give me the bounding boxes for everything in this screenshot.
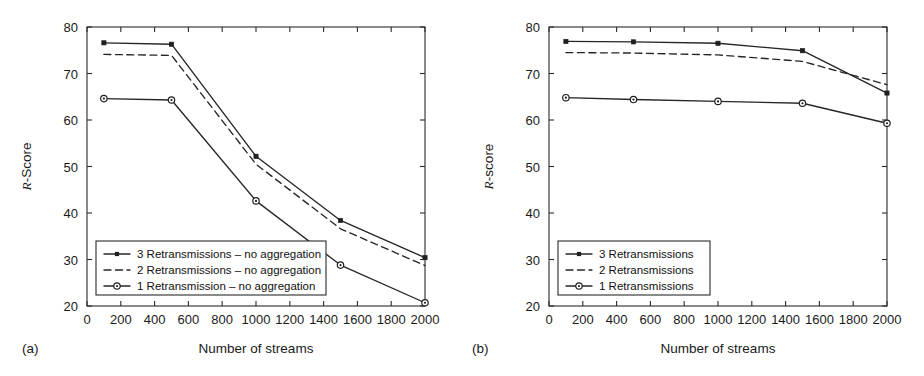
chart-panel-a: 0200400600800100012001400160018002000203… [0, 0, 462, 376]
x-tick-label: 200 [572, 312, 594, 327]
figure-container: 0200400600800100012001400160018002000203… [0, 0, 924, 376]
series-marker-dot [103, 98, 105, 100]
chart-svg-a: 0200400600800100012001400160018002000203… [0, 0, 462, 376]
x-tick-label: 1600 [343, 312, 372, 327]
x-tick-label: 2000 [873, 312, 902, 327]
chart-panel-b: 0200400600800100012001400160018002000203… [462, 0, 924, 376]
legend-label-1: 3 Retransmissions [599, 248, 694, 260]
y-tick-label: 70 [64, 67, 78, 82]
y-axis-title: R-score [481, 144, 496, 191]
panel-tag: (b) [472, 341, 489, 356]
legend-label-2: 2 Retransmissions [599, 264, 694, 276]
series-marker-square [102, 41, 106, 45]
y-tick-label: 60 [64, 113, 78, 128]
legend-label-3: 1 Retransmission – no aggregation [137, 280, 315, 292]
x-tick-label: 400 [606, 312, 628, 327]
series-marker-square [254, 154, 258, 158]
panel-tag: (a) [22, 341, 39, 356]
series-line-1 [104, 43, 425, 258]
x-axis-title: Number of streams [661, 341, 776, 356]
y-tick-label: 40 [526, 206, 540, 221]
y-tick-label: 20 [526, 299, 540, 314]
series-marker-dot [632, 98, 634, 100]
series-marker-square [631, 40, 635, 44]
y-tick-label: 40 [64, 206, 78, 221]
series-marker-dot [801, 102, 803, 104]
series-marker-square [423, 256, 427, 260]
series-marker-dot [424, 302, 426, 304]
x-axis-title: Number of streams [199, 341, 314, 356]
legend-label-2: 2 Retransmissions – no aggregation [137, 264, 321, 276]
y-axis-title-text: R-Score [19, 142, 34, 191]
series-marker-square [338, 218, 342, 222]
x-tick-label: 200 [110, 312, 132, 327]
legend-label-1: 3 Retransmissions – no aggregation [137, 248, 321, 260]
x-tick-label: 800 [673, 312, 695, 327]
series-marker-square [564, 39, 568, 43]
series-line-1 [566, 41, 887, 93]
series-marker-dot [339, 264, 341, 266]
legend-marker-square [577, 252, 581, 256]
legend-marker-square [115, 252, 119, 256]
x-tick-label: 1800 [377, 312, 406, 327]
y-tick-label: 70 [526, 67, 540, 82]
y-axis-title-text: R-score [481, 144, 496, 191]
x-tick-label: 400 [144, 312, 166, 327]
series-marker-square [169, 42, 173, 46]
x-tick-label: 1200 [275, 312, 304, 327]
x-tick-label: 1200 [737, 312, 766, 327]
x-tick-label: 0 [545, 312, 552, 327]
x-tick-label: 2000 [411, 312, 440, 327]
series-marker-square [885, 91, 889, 95]
x-tick-label: 0 [83, 312, 90, 327]
series-marker-square [716, 41, 720, 45]
series-marker-dot [886, 122, 888, 124]
x-tick-label: 600 [640, 312, 662, 327]
legend: 3 Retransmissions2 Retransmissions1 Retr… [558, 241, 710, 295]
series-line-3 [566, 98, 887, 124]
legend-marker-dot [578, 285, 580, 287]
x-tick-label: 1800 [839, 312, 868, 327]
series-marker-dot [170, 99, 172, 101]
y-tick-label: 80 [64, 20, 78, 35]
x-tick-label: 600 [178, 312, 200, 327]
y-tick-label: 50 [64, 160, 78, 175]
x-tick-label: 800 [211, 312, 233, 327]
legend: 3 Retransmissions – no aggregation2 Retr… [96, 241, 326, 295]
y-tick-label: 50 [526, 160, 540, 175]
y-axis-title: R-Score [19, 142, 34, 191]
x-tick-label: 1000 [242, 312, 271, 327]
legend-marker-dot [116, 285, 118, 287]
y-tick-label: 30 [526, 253, 540, 268]
y-axis-title-rest: -Score [19, 142, 34, 182]
y-tick-label: 20 [64, 299, 78, 314]
y-tick-label: 80 [526, 20, 540, 35]
legend-label-3: 1 Retransmissions [599, 280, 694, 292]
x-tick-label: 1600 [805, 312, 834, 327]
chart-svg-b: 0200400600800100012001400160018002000203… [462, 0, 924, 376]
series-marker-dot [255, 200, 257, 202]
series-marker-square [800, 49, 804, 53]
series-marker-dot [565, 97, 567, 99]
x-tick-label: 1400 [309, 312, 338, 327]
x-tick-label: 1000 [704, 312, 733, 327]
series-marker-dot [717, 100, 719, 102]
y-tick-label: 30 [64, 253, 78, 268]
y-tick-label: 60 [526, 113, 540, 128]
x-tick-label: 1400 [771, 312, 800, 327]
series-line-2 [104, 54, 425, 265]
y-axis-title-rest: -score [481, 144, 496, 182]
